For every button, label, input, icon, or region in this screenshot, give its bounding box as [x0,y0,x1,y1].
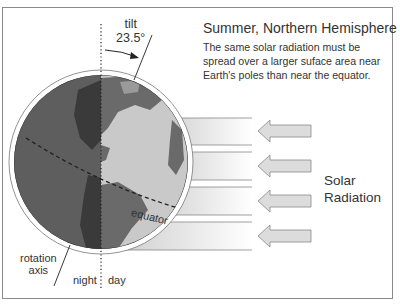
day-label: day [108,274,126,286]
solar-line2: Radiation [324,189,381,206]
rotation-axis-line1: rotation [20,252,57,264]
arrow-left-icon [258,190,311,212]
diagram-title: Summer, Northern Hemisphere [203,20,397,36]
diagram-description: The same solar radiation must be spread … [203,40,395,82]
arrow-left-icon [258,225,311,247]
rotation-axis-line2: axis [20,264,57,276]
tilt-arrowhead-icon [130,52,139,59]
tilt-word: tilt [116,17,145,31]
solar-radiation-label: Solar Radiation [324,172,381,206]
solar-arrows [258,120,311,247]
arrow-left-icon [258,155,311,177]
rotation-axis-label: rotation axis [20,252,57,276]
tilt-label: tilt 23.5° [116,17,145,45]
tilt-angle: 23.5° [116,31,145,45]
arrow-left-icon [258,120,311,142]
solar-line1: Solar [324,172,381,189]
night-label: night [73,274,97,286]
